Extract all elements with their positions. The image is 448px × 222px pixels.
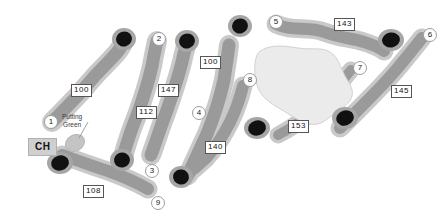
hole-marker-1[interactable]: 1 (44, 115, 58, 129)
putting-green-label-line1: Putting (62, 113, 82, 121)
hole-marker-7[interactable]: 7 (353, 61, 367, 75)
hole-marker-4[interactable]: 4 (192, 106, 206, 120)
golf-course-map: CH Putting Green 1 2 3 4 5 6 7 8 9 100 1… (0, 0, 448, 222)
yardage-label-hole-2: 112 (136, 106, 157, 119)
hole-marker-9[interactable]: 9 (151, 196, 165, 210)
yardage-label-hole-5: 143 (334, 18, 355, 31)
hole-marker-2[interactable]: 2 (152, 32, 166, 46)
yardage-label-hole-8: 140 (205, 141, 226, 154)
yardage-label-hole-1: 100 (71, 84, 92, 97)
yardage-label-hole-9: 108 (83, 185, 104, 198)
course-vector-layer (0, 0, 448, 222)
yardage-label-hole-4: 100 (200, 56, 221, 69)
yardage-label-hole-3: 147 (158, 84, 179, 97)
hole-marker-3[interactable]: 3 (145, 164, 159, 178)
hole-marker-8[interactable]: 8 (243, 73, 257, 87)
hole-marker-6[interactable]: 6 (423, 28, 437, 42)
yardage-label-hole-6: 145 (391, 85, 412, 98)
putting-green-label-line2: Green (62, 121, 82, 129)
hole-marker-5[interactable]: 5 (269, 15, 283, 29)
putting-green-label: Putting Green (62, 113, 82, 128)
yardage-label-hole-7: 153 (288, 120, 309, 133)
clubhouse-badge[interactable]: CH (28, 138, 57, 156)
